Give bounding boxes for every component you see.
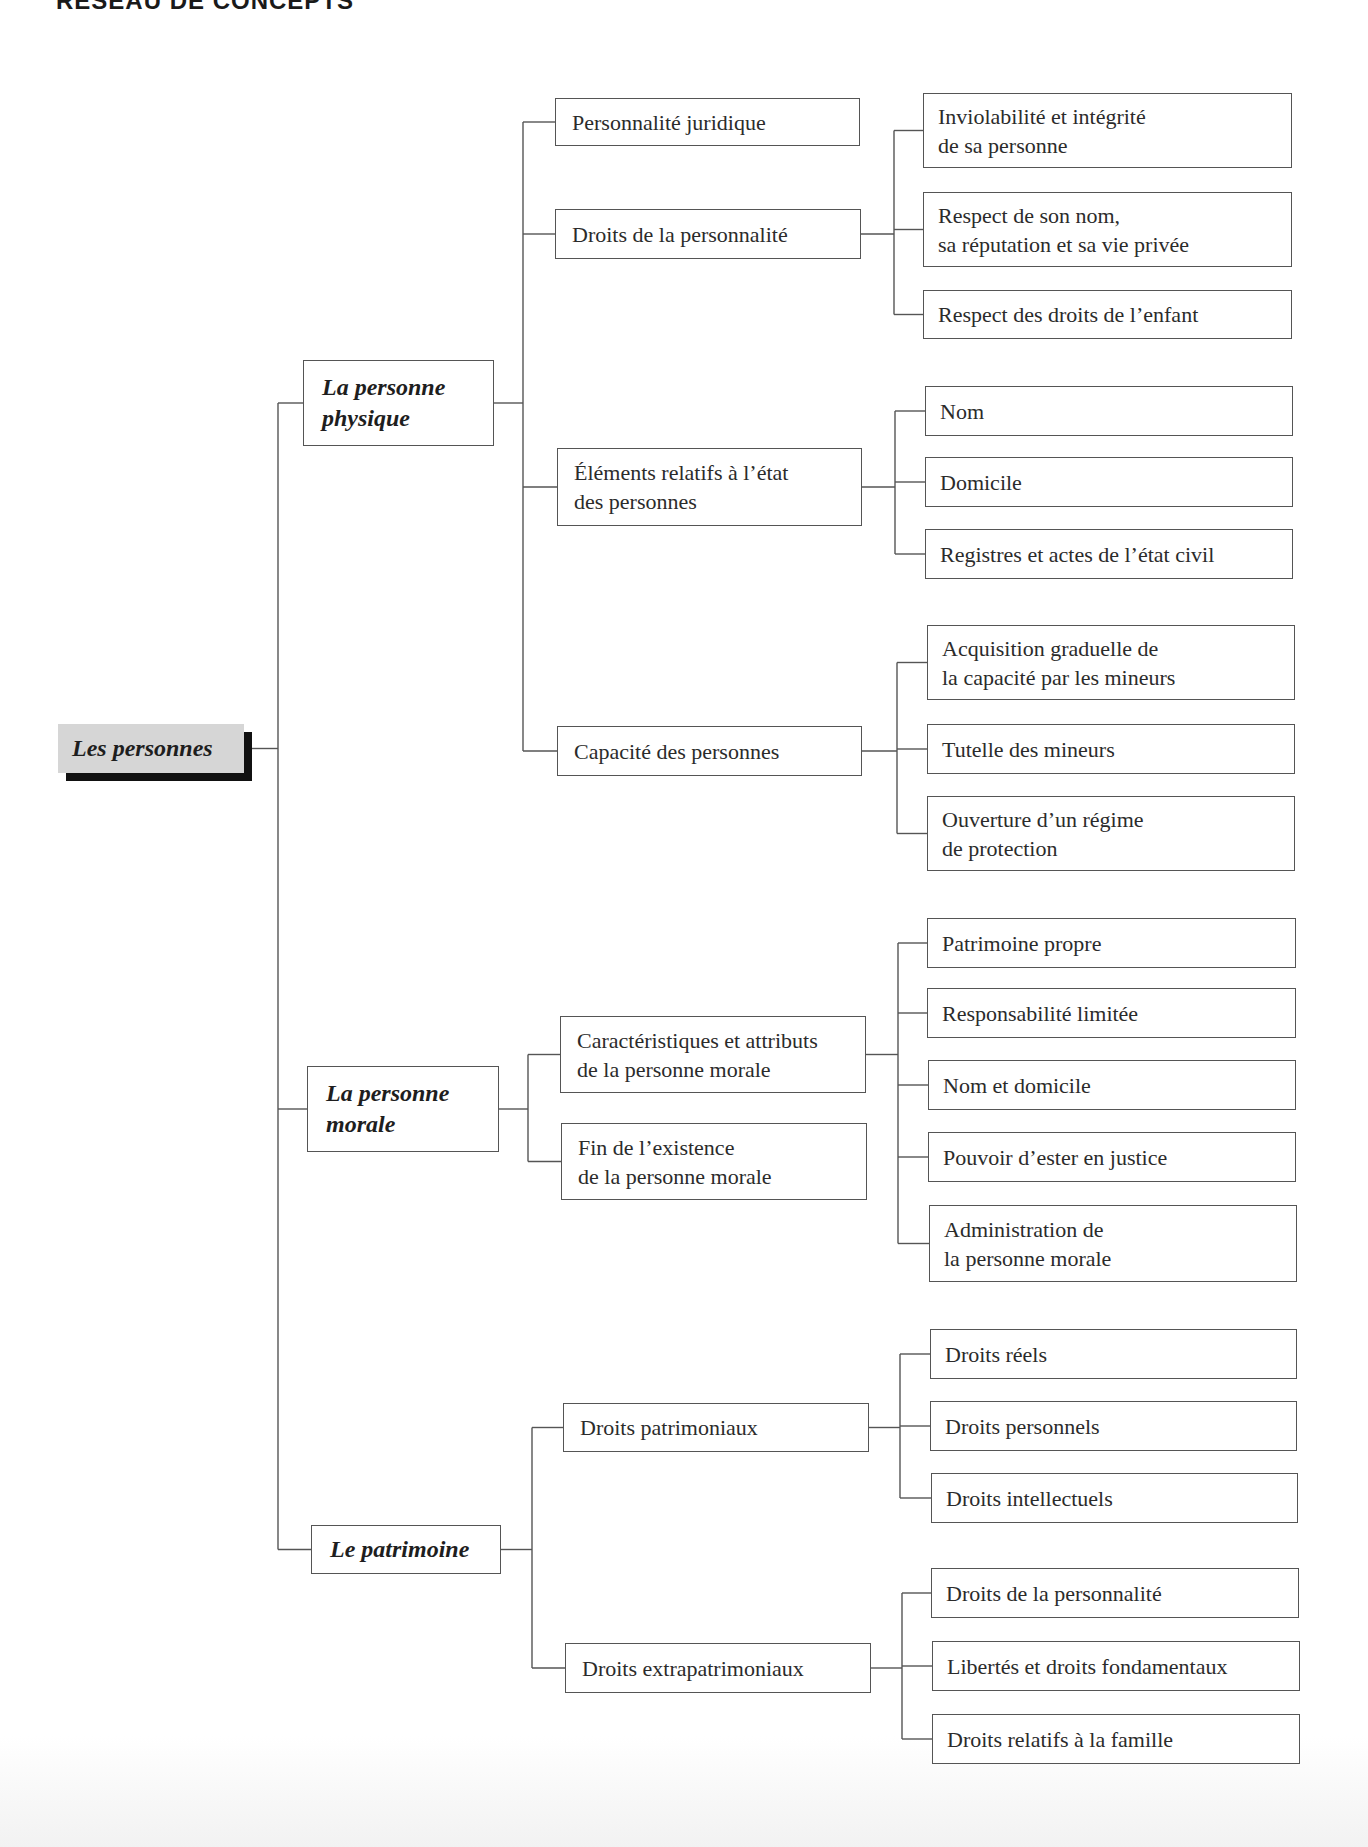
l3-node-inviolabilite-et-integrite-de-sa-personne[interactable]: Inviolabilité et intégrité de sa personn… — [923, 93, 1292, 168]
root-node-les-personnes[interactable]: Les personnes — [58, 724, 244, 773]
l3-node-registres-et-actes-de-l-etat-civil[interactable]: Registres et actes de l’état civil — [925, 529, 1293, 579]
l3-node-tutelle-des-mineurs[interactable]: Tutelle des mineurs — [927, 724, 1295, 774]
l3-node-nom-et-domicile[interactable]: Nom et domicile — [928, 1060, 1296, 1110]
l1-node-la-personne-physique[interactable]: La personne physique — [303, 360, 494, 446]
l1-node-la-personne-morale[interactable]: La personne morale — [307, 1066, 499, 1152]
l3-node-respect-de-son-nom-sa-reputation-et-sa-vie-privee[interactable]: Respect de son nom, sa réputation et sa … — [923, 192, 1292, 267]
l2-node-fin-de-l-existence-de-la-personne-morale[interactable]: Fin de l’existence de la personne morale — [561, 1123, 867, 1200]
l3-node-ouverture-d-un-regime-de-protection[interactable]: Ouverture d’un régime de protection — [927, 796, 1295, 871]
l3-node-droits-relatifs-a-la-famille[interactable]: Droits relatifs à la famille — [932, 1714, 1300, 1764]
l3-node-libertes-et-droits-fondamentaux[interactable]: Libertés et droits fondamentaux — [932, 1641, 1300, 1691]
l2-node-caracteristiques-et-attributs-de-la-personne-morale[interactable]: Caractéristiques et attributs de la pers… — [560, 1016, 866, 1093]
l3-node-administration-de-la-personne-morale[interactable]: Administration de la personne morale — [929, 1205, 1297, 1282]
l2-node-droits-extrapatrimoniaux[interactable]: Droits extrapatrimoniaux — [565, 1643, 871, 1693]
page-header-title: RÉSEAU DE CONCEPTS — [56, 0, 354, 15]
l3-node-respect-des-droits-de-l-enfant[interactable]: Respect des droits de l’enfant — [923, 290, 1292, 339]
l3-node-nom[interactable]: Nom — [925, 386, 1293, 436]
l2-node-elements-relatifs-a-l-etat-des-personnes[interactable]: Éléments relatifs à l’état des personnes — [557, 448, 862, 526]
l1-node-le-patrimoine[interactable]: Le patrimoine — [311, 1525, 501, 1574]
l3-node-patrimoine-propre[interactable]: Patrimoine propre — [927, 918, 1296, 968]
l2-node-personnalite-juridique[interactable]: Personnalité juridique — [555, 98, 860, 146]
l2-node-droits-patrimoniaux[interactable]: Droits patrimoniaux — [563, 1403, 869, 1452]
l3-node-domicile[interactable]: Domicile — [925, 457, 1293, 507]
l3-node-acquisition-graduelle-de-la-capacite-par-les-mineurs[interactable]: Acquisition graduelle de la capacité par… — [927, 625, 1295, 700]
l2-node-capacite-des-personnes[interactable]: Capacité des personnes — [557, 726, 862, 776]
l3-node-droits-reels[interactable]: Droits réels — [930, 1329, 1297, 1379]
l2-node-droits-de-la-personnalite[interactable]: Droits de la personnalité — [555, 209, 861, 259]
l3-node-droits-de-la-personnalite[interactable]: Droits de la personnalité — [931, 1568, 1299, 1618]
l3-node-responsabilite-limitee[interactable]: Responsabilité limitée — [927, 988, 1296, 1038]
l3-node-pouvoir-d-ester-en-justice[interactable]: Pouvoir d’ester en justice — [928, 1132, 1296, 1182]
l3-node-droits-intellectuels[interactable]: Droits intellectuels — [931, 1473, 1298, 1523]
l3-node-droits-personnels[interactable]: Droits personnels — [930, 1401, 1297, 1451]
